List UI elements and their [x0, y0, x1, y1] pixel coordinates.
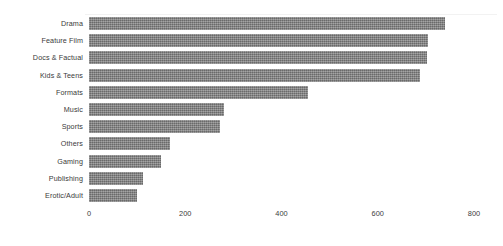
bar-formats [89, 86, 308, 99]
x-tick-label-400: 400 [262, 209, 302, 219]
x-tick-label-200: 200 [165, 209, 205, 219]
bar-row: Erotic/Adult [0, 189, 503, 206]
bar-row: Sports [0, 120, 503, 137]
category-label-sports: Sports [0, 120, 83, 133]
x-axis: 0200400600800 [0, 209, 503, 229]
x-tick-label-600: 600 [358, 209, 398, 219]
bar-drama [89, 17, 445, 30]
x-tick-label-800: 800 [454, 209, 494, 219]
category-label-formats: Formats [0, 86, 83, 99]
bar-row: Docs & Factual [0, 51, 503, 68]
category-label-feature-film: Feature Film [0, 34, 83, 47]
bar-chart: DramaFeature FilmDocs & FactualKids & Te… [0, 0, 503, 246]
bar-row: Feature Film [0, 34, 503, 51]
bar-kids-teens [89, 69, 420, 82]
bar-row: Others [0, 137, 503, 154]
bar-row: Kids & Teens [0, 69, 503, 86]
bar-row: Gaming [0, 155, 503, 172]
category-label-erotic-adult: Erotic/Adult [0, 189, 83, 202]
bar-row: Publishing [0, 172, 503, 189]
bar-docs-factual [89, 51, 427, 64]
bar-music [89, 103, 224, 116]
category-label-kids-teens: Kids & Teens [0, 69, 83, 82]
bar-gaming [89, 155, 161, 168]
bar-sports [89, 120, 220, 133]
bar-row: Drama [0, 17, 503, 34]
category-label-music: Music [0, 103, 83, 116]
bar-feature-film [89, 34, 428, 47]
bar-row: Music [0, 103, 503, 120]
category-label-publishing: Publishing [0, 172, 83, 185]
category-label-drama: Drama [0, 17, 83, 30]
bar-erotic-adult [89, 189, 137, 202]
category-label-others: Others [0, 137, 83, 150]
x-tick-label-0: 0 [69, 209, 109, 219]
category-label-docs-factual: Docs & Factual [0, 51, 83, 64]
bar-others [89, 137, 170, 150]
bar-publishing [89, 172, 143, 185]
bar-row: Formats [0, 86, 503, 103]
category-label-gaming: Gaming [0, 155, 83, 168]
